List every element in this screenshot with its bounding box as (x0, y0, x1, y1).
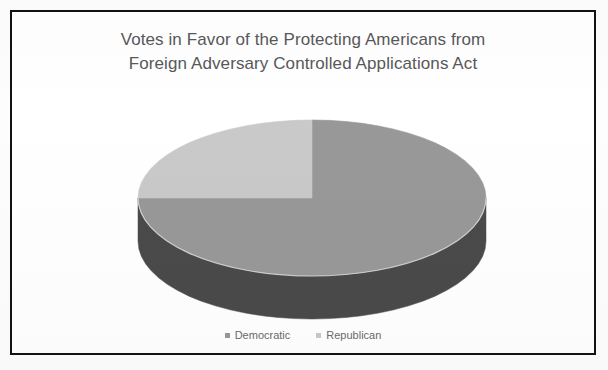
scanned-page: Votes in Favor of the Protecting America… (0, 0, 608, 370)
legend-label-republican: Republican (326, 329, 381, 341)
legend-label-democratic: Democratic (235, 329, 291, 341)
legend-item-republican[interactable]: Republican (316, 329, 381, 341)
chart-legend: Democratic Republican (12, 329, 594, 341)
pie-chart-svg (12, 12, 598, 357)
pie-chart (12, 12, 598, 357)
legend-swatch-republican-icon (316, 333, 321, 338)
legend-item-democratic[interactable]: Democratic (225, 329, 291, 341)
legend-swatch-democratic-icon (225, 333, 230, 338)
chart-frame: Votes in Favor of the Protecting America… (10, 10, 596, 355)
